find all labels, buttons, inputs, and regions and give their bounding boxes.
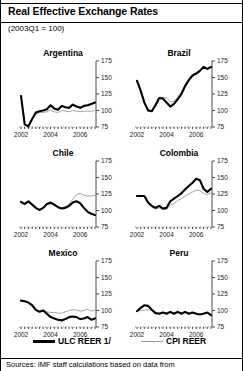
y-tick-label: 125 <box>217 290 228 297</box>
y-tick-label: 75 <box>101 223 109 230</box>
panel-plot: 75100125150175200220042006 <box>7 248 119 343</box>
y-tick-label: 175 <box>217 157 228 164</box>
x-tick-label: 2002 <box>130 131 145 138</box>
ulc-reer-line <box>21 201 95 215</box>
cpi-reer-line <box>21 96 95 126</box>
x-tick-label: 2004 <box>159 231 174 238</box>
source-note: Sources: IMF staff calculations based on… <box>6 360 175 369</box>
panel-argentina: Argentina75100125150175200220042006 <box>7 48 119 143</box>
bottom-rule <box>1 358 243 359</box>
panel-plot: 75100125150175200220042006 <box>123 148 235 243</box>
y-tick-label: 175 <box>101 57 112 64</box>
panel-plot: 75100125150175200220042006 <box>123 248 235 343</box>
x-tick-label: 2002 <box>14 131 29 138</box>
y-tick-label: 125 <box>101 190 112 197</box>
y-tick-label: 175 <box>217 257 228 264</box>
panel-chile: Chile75100125150175200220042006 <box>7 148 119 243</box>
y-tick-label: 125 <box>217 90 228 97</box>
panel-title: Argentina <box>7 48 119 58</box>
y-tick-label: 125 <box>101 290 112 297</box>
x-tick-label: 2006 <box>73 231 88 238</box>
x-tick-label: 2004 <box>43 131 58 138</box>
x-tick-label: 2004 <box>43 231 58 238</box>
panel-plot: 75100125150175200220042006 <box>7 48 119 143</box>
cpi-reer-line <box>137 190 211 210</box>
page-subtitle: (2003Q1 = 100) <box>8 24 64 33</box>
legend-label-cpi: CPI REER <box>166 336 206 346</box>
x-tick-label: 2004 <box>159 131 174 138</box>
y-tick-label: 75 <box>217 123 225 130</box>
y-tick-label: 150 <box>217 274 228 281</box>
y-tick-label: 175 <box>101 157 112 164</box>
chart-legend: ULC REER 1/ CPI REER <box>1 336 243 352</box>
y-tick-label: 150 <box>217 174 228 181</box>
y-tick-label: 75 <box>101 123 109 130</box>
y-tick-label: 75 <box>101 323 109 330</box>
y-tick-label: 125 <box>217 190 228 197</box>
y-tick-label: 100 <box>217 107 228 114</box>
panel-title: Mexico <box>7 248 119 258</box>
title-rule <box>1 22 243 23</box>
panel-title: Peru <box>123 248 235 258</box>
panel-title: Brazil <box>123 48 235 58</box>
y-tick-label: 125 <box>101 90 112 97</box>
panel-mexico: Mexico75100125150175200220042006 <box>7 248 119 343</box>
ulc-reer-line <box>137 179 211 209</box>
y-tick-label: 150 <box>101 74 112 81</box>
cpi-line-swatch-icon <box>141 341 163 342</box>
panel-plot: 75100125150175200220042006 <box>7 148 119 243</box>
y-tick-label: 75 <box>217 323 225 330</box>
y-tick-label: 150 <box>101 274 112 281</box>
panel-colombia: Colombia75100125150175200220042006 <box>123 148 235 243</box>
legend-item-ulc: ULC REER 1/ <box>33 336 111 346</box>
y-tick-label: 100 <box>101 307 112 314</box>
panel-title: Colombia <box>123 148 235 158</box>
x-tick-label: 2002 <box>130 231 145 238</box>
top-rule <box>1 3 243 4</box>
x-tick-label: 2002 <box>14 231 29 238</box>
y-tick-label: 150 <box>217 74 228 81</box>
y-tick-label: 175 <box>101 257 112 264</box>
y-tick-label: 175 <box>217 57 228 64</box>
y-tick-label: 100 <box>101 107 112 114</box>
figure-container: Real Effective Exchange Rates (2003Q1 = … <box>0 0 243 371</box>
ulc-line-swatch-icon <box>33 340 55 343</box>
y-tick-label: 100 <box>217 207 228 214</box>
y-tick-label: 100 <box>217 307 228 314</box>
page-title: Real Effective Exchange Rates <box>8 5 158 17</box>
legend-label-ulc: ULC REER 1/ <box>58 336 111 346</box>
x-tick-label: 2006 <box>189 131 204 138</box>
panel-plot: 75100125150175200220042006 <box>123 48 235 143</box>
x-tick-label: 2006 <box>73 131 88 138</box>
panel-brazil: Brazil75100125150175200220042006 <box>123 48 235 143</box>
ulc-reer-line <box>137 67 211 111</box>
y-tick-label: 100 <box>101 207 112 214</box>
panel-title: Chile <box>7 148 119 158</box>
panel-peru: Peru75100125150175200220042006 <box>123 248 235 343</box>
x-tick-label: 2006 <box>189 231 204 238</box>
legend-item-cpi: CPI REER <box>141 336 206 346</box>
y-tick-label: 75 <box>217 223 225 230</box>
y-tick-label: 150 <box>101 174 112 181</box>
